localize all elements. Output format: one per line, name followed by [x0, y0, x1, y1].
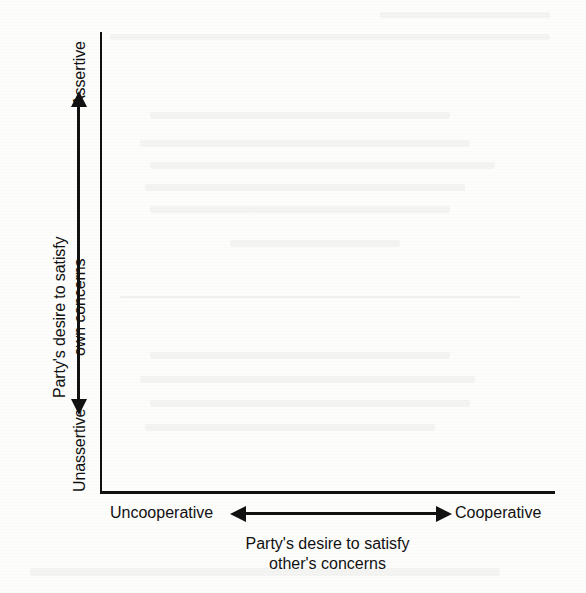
bleed-through-artifact: [145, 424, 435, 431]
bleed-through-artifact: [150, 400, 470, 407]
y-axis-low-label: Unassertive: [72, 409, 88, 492]
bleed-through-artifact: [120, 296, 520, 298]
x-axis-high-label: Cooperative: [455, 505, 541, 521]
figure-canvas: Assertive Unassertive Party's desire to …: [0, 0, 586, 593]
bleed-through-artifact: [150, 162, 495, 169]
x-axis-low-label: Uncooperative: [110, 505, 213, 521]
y-axis-title-line-2: own concerns: [72, 258, 88, 356]
bleed-through-artifact: [110, 34, 550, 40]
x-axis-line: [100, 491, 555, 494]
bleed-through-artifact: [150, 112, 450, 119]
x-axis-title-line-1: Party's desire to satisfy: [100, 534, 555, 554]
bleed-through-artifact: [140, 140, 470, 147]
y-axis-title-line-1: Party's desire to satisfy: [52, 236, 68, 398]
y-axis-high-label: Assertive: [72, 41, 88, 106]
bleed-through-artifact: [140, 376, 475, 383]
x-axis-double-arrow-icon: [245, 512, 437, 515]
bleed-through-artifact: [380, 12, 550, 18]
x-axis-title: Party's desire to satisfy other's concer…: [100, 534, 555, 574]
bleed-through-artifact: [150, 352, 450, 359]
bleed-through-artifact: [150, 206, 450, 213]
bleed-through-artifact: [230, 240, 400, 247]
y-axis-line: [100, 32, 102, 493]
bleed-through-artifact: [145, 184, 465, 191]
x-axis-title-line-2: other's concerns: [100, 554, 555, 574]
